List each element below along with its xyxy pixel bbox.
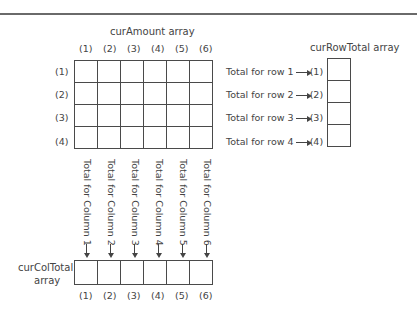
amount-col-label: (5)	[175, 44, 188, 54]
right-arrow-icon	[296, 95, 308, 96]
down-arrow-icon	[158, 244, 159, 254]
row-total-text: Total for row 4	[226, 136, 294, 147]
amount-cell	[167, 83, 190, 105]
col-total-cell	[190, 261, 213, 285]
amount-cell	[75, 127, 98, 149]
down-arrow-icon	[86, 244, 87, 254]
col-total-index: (2)	[103, 291, 116, 301]
row-total-cell	[328, 125, 351, 147]
amount-cell	[144, 83, 167, 105]
col-total-cell	[167, 261, 190, 285]
col-total-cell	[75, 261, 98, 285]
column-total-text: Total for Column 2	[107, 159, 117, 246]
row-total-index: (4)	[310, 136, 323, 147]
row-total-cell	[328, 81, 351, 103]
amount-array-title: curAmount array	[110, 27, 195, 37]
col-total-index: (5)	[175, 291, 188, 301]
right-arrow-icon	[296, 72, 308, 73]
col-total-array-title: curColTotal	[18, 263, 73, 273]
down-arrow-icon	[182, 244, 183, 254]
amount-cell	[98, 127, 121, 149]
amount-row-label: (1)	[55, 67, 68, 77]
col-total-index: (1)	[79, 291, 92, 301]
row-total-text: Total for row 1	[226, 66, 294, 77]
column-total-text: Total for Column 3	[131, 159, 141, 246]
amount-cell	[190, 61, 213, 83]
right-arrow-icon	[296, 142, 308, 143]
amount-col-label: (1)	[79, 44, 92, 54]
column-total-text: Total for Column 6	[203, 159, 213, 246]
col-total-cell	[144, 261, 167, 285]
col-total-cell	[121, 261, 144, 285]
amount-cell	[98, 83, 121, 105]
amount-cell	[121, 105, 144, 127]
row-total-cell	[328, 103, 351, 125]
amount-cell	[121, 83, 144, 105]
col-total-array-title-line2: array	[34, 276, 60, 286]
row-total-entry: Total for row 1(1)	[226, 67, 323, 77]
row-total-text: Total for row 3	[226, 112, 294, 123]
right-arrow-icon	[296, 118, 308, 119]
row-total-entry: Total for row 4(4)	[226, 137, 323, 147]
col-total-index: (3)	[127, 291, 140, 301]
row-total-text: Total for row 2	[226, 89, 294, 100]
amount-col-label: (6)	[199, 44, 212, 54]
col-total-index: (6)	[199, 291, 212, 301]
amount-cell	[167, 105, 190, 127]
down-arrow-icon	[134, 244, 135, 254]
amount-cell	[167, 127, 190, 149]
amount-cell	[75, 61, 98, 83]
amount-col-label: (4)	[151, 44, 164, 54]
amount-cell	[121, 61, 144, 83]
amount-row-label: (3)	[55, 113, 68, 123]
amount-cell	[75, 105, 98, 127]
col-total-cell	[98, 261, 121, 285]
row-total-index: (1)	[310, 66, 323, 77]
amount-cell	[144, 105, 167, 127]
amount-cell	[190, 105, 213, 127]
col-total-index: (4)	[151, 291, 164, 301]
row-total-index: (2)	[310, 89, 323, 100]
amount-cell	[121, 127, 144, 149]
column-total-text: Total for Column 4	[155, 159, 165, 246]
amount-cell	[190, 83, 213, 105]
amount-row-label: (4)	[55, 137, 68, 147]
amount-row-label: (2)	[55, 90, 68, 100]
column-total-text: Total for Column 5	[179, 159, 189, 246]
row-total-array-title: curRowTotal array	[310, 43, 400, 53]
row-total-cell	[328, 59, 351, 81]
amount-cell	[144, 127, 167, 149]
top-rule	[0, 13, 417, 15]
row-total-array-grid	[327, 58, 351, 147]
row-total-entry: Total for row 3(3)	[226, 113, 323, 123]
row-total-index: (3)	[310, 112, 323, 123]
amount-array-grid	[74, 60, 213, 149]
down-arrow-icon	[110, 244, 111, 254]
row-total-entry: Total for row 2(2)	[226, 90, 323, 100]
down-arrow-icon	[206, 244, 207, 254]
amount-cell	[98, 105, 121, 127]
amount-cell	[167, 61, 190, 83]
amount-col-label: (3)	[127, 44, 140, 54]
amount-col-label: (2)	[103, 44, 116, 54]
amount-cell	[98, 61, 121, 83]
amount-cell	[75, 83, 98, 105]
amount-cell	[190, 127, 213, 149]
amount-cell	[144, 61, 167, 83]
column-total-text: Total for Column 1	[83, 159, 93, 246]
col-total-array-grid	[74, 260, 213, 285]
